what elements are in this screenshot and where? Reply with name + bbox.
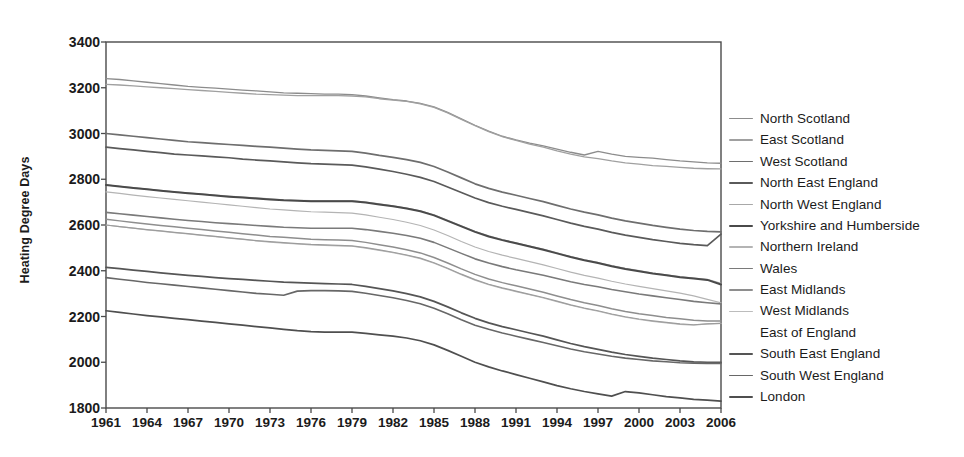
legend-item[interactable]: London	[728, 386, 960, 407]
legend-line-swatch-icon	[728, 396, 754, 398]
y-tick-label: 2400	[69, 264, 100, 278]
x-tick-label: 2006	[706, 416, 736, 430]
legend-item[interactable]: East Scotland	[728, 129, 960, 150]
legend-item-label: South East England	[760, 347, 880, 361]
legend-item[interactable]: South West England	[728, 365, 960, 386]
legend-item-label: East Scotland	[760, 133, 844, 147]
x-tick-label: 1973	[255, 416, 285, 430]
legend-item[interactable]: North Scotland	[728, 108, 960, 129]
y-tick-label: 3400	[69, 35, 100, 49]
y-axis-title: Heating Degree Days	[18, 120, 32, 320]
x-tick-label: 1964	[132, 416, 162, 430]
x-axis-tick-labels: 1961196419671970197319761979198219851988…	[0, 416, 964, 446]
y-axis-tick-labels: 340032003000280026002400220020001800	[38, 0, 100, 457]
legend-item-label: East of England	[760, 326, 856, 340]
plot-frame	[106, 42, 721, 408]
series-line	[106, 311, 721, 401]
legend-item-label: North Scotland	[760, 112, 850, 126]
legend-item-label: Wales	[760, 262, 797, 276]
x-tick-label: 1994	[542, 416, 572, 430]
y-tick-label: 3000	[69, 127, 100, 141]
legend-item-label: West Scotland	[760, 155, 847, 169]
plot-area	[106, 42, 721, 408]
legend-item[interactable]: Yorkshire and Humberside	[728, 215, 960, 236]
legend-item-label: Yorkshire and Humberside	[760, 219, 920, 233]
series-line	[106, 212, 721, 304]
legend-item[interactable]: East Midlands	[728, 279, 960, 300]
legend-line-swatch-icon	[728, 268, 754, 270]
y-tick-label: 2000	[69, 355, 100, 369]
legend-line-swatch-icon	[728, 118, 754, 119]
legend-item[interactable]: Northern Ireland	[728, 236, 960, 257]
chart-legend: North ScotlandEast ScotlandWest Scotland…	[728, 108, 960, 407]
y-tick-label: 2600	[69, 218, 100, 232]
legend-line-swatch-icon	[728, 375, 754, 377]
legend-item[interactable]: Wales	[728, 258, 960, 279]
chart-figure: Heating Degree Days 34003200300028002600…	[0, 0, 964, 457]
x-tick-label: 1985	[419, 416, 449, 430]
x-tick-label: 1979	[337, 416, 367, 430]
series-line	[106, 192, 721, 303]
series-line	[106, 147, 721, 245]
x-tick-label: 2000	[624, 416, 654, 430]
y-tick-label: 2200	[69, 310, 100, 324]
legend-item-label: North East England	[760, 176, 878, 190]
x-tick-label: 1961	[91, 416, 121, 430]
legend-line-swatch-icon	[728, 353, 754, 355]
x-tick-label: 1991	[501, 416, 531, 430]
series-line	[106, 134, 721, 232]
legend-item[interactable]: North West England	[728, 194, 960, 215]
x-tick-label: 1976	[296, 416, 326, 430]
y-tick-label: 2800	[69, 172, 100, 186]
legend-item[interactable]: North East England	[728, 172, 960, 193]
line-chart-svg	[106, 42, 721, 408]
legend-item-label: East Midlands	[760, 283, 845, 297]
series-line	[106, 225, 721, 325]
legend-line-swatch-icon	[728, 204, 754, 205]
y-tick-label: 3200	[69, 81, 100, 95]
legend-line-swatch-icon	[728, 246, 754, 247]
legend-line-swatch-icon	[728, 139, 754, 140]
x-tick-label: 1982	[378, 416, 408, 430]
legend-line-swatch-icon	[728, 182, 754, 184]
legend-line-swatch-icon	[728, 225, 754, 227]
x-tick-label: 1997	[583, 416, 613, 430]
legend-line-swatch-icon	[728, 289, 754, 291]
legend-item[interactable]: East of England	[728, 322, 960, 343]
legend-item-label: Northern Ireland	[760, 240, 858, 254]
x-tick-label: 1967	[173, 416, 203, 430]
legend-item-label: South West England	[760, 369, 884, 383]
y-tick-label: 1800	[69, 401, 100, 415]
series-line	[106, 267, 721, 362]
legend-item-label: North West England	[760, 198, 881, 212]
legend-item-label: West Midlands	[760, 304, 849, 318]
legend-line-swatch-icon	[728, 311, 754, 312]
series-line	[106, 225, 721, 325]
legend-item[interactable]: West Midlands	[728, 301, 960, 322]
x-tick-label: 1970	[214, 416, 244, 430]
legend-item[interactable]: South East England	[728, 343, 960, 364]
legend-line-swatch-icon	[728, 161, 754, 163]
legend-item[interactable]: West Scotland	[728, 151, 960, 172]
series-line	[106, 79, 721, 164]
x-tick-label: 1988	[460, 416, 490, 430]
legend-item-label: London	[760, 390, 805, 404]
x-tick-label: 2003	[665, 416, 695, 430]
